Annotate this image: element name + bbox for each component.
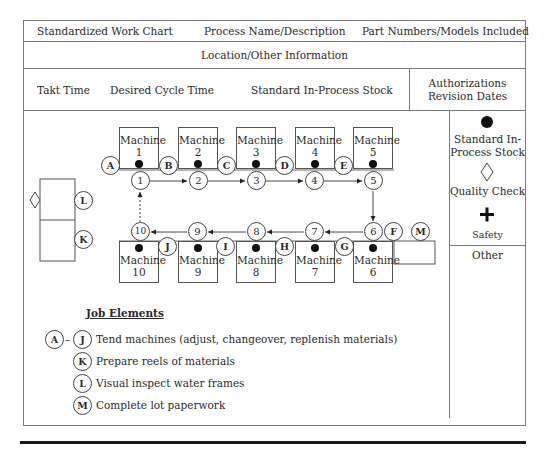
element-g: G	[335, 237, 354, 256]
element-h: H	[275, 237, 294, 256]
stock-dot-icon	[135, 244, 143, 252]
job-elements-heading: Job Elements	[86, 307, 164, 319]
job-code-j: J	[73, 330, 92, 349]
machine-label: Machine	[237, 254, 275, 266]
element-m: M	[411, 222, 430, 241]
step-8: 8	[247, 222, 266, 241]
step-6: 6	[364, 222, 383, 241]
machine-label: Machine	[354, 134, 392, 146]
job-element-text: Complete lot paperwork	[96, 399, 225, 411]
element-d: D	[275, 156, 294, 175]
machine-number: 5	[354, 146, 392, 158]
step-10: 10	[131, 222, 150, 241]
stock-dot-icon	[369, 244, 377, 252]
machine-number: 6	[354, 266, 392, 278]
machine-label: Machine	[296, 134, 334, 146]
step-9: 9	[188, 222, 207, 241]
element-b: B	[159, 156, 178, 175]
job-code-l: L	[73, 374, 92, 393]
stock-dot-icon	[311, 244, 319, 252]
machine-number: 10	[120, 266, 158, 278]
job-element-text: Tend machines (adjust, changeover, reple…	[96, 333, 397, 345]
stock-dot-icon	[194, 160, 202, 168]
machine-number: 2	[179, 146, 217, 158]
machine-label: Machine	[237, 134, 275, 146]
element-j: J	[158, 237, 177, 256]
machine-label: Machine	[179, 254, 217, 266]
stock-dot-icon	[311, 160, 319, 168]
element-a: A	[101, 156, 120, 175]
machine-label: Machine	[354, 254, 392, 266]
element-f: F	[384, 222, 403, 241]
machine-label: Machine	[179, 134, 217, 146]
element-k: K	[74, 230, 93, 249]
machine-number: 3	[237, 146, 275, 158]
machine-number: 1	[120, 146, 158, 158]
stock-dot-icon	[369, 160, 377, 168]
stock-dot-icon	[194, 244, 202, 252]
job-element-text: Prepare reels of materials	[96, 355, 235, 367]
job-code-a: A	[45, 330, 64, 349]
step-2: 2	[189, 171, 208, 190]
machine-label: Machine	[296, 254, 334, 266]
element-e: E	[334, 156, 353, 175]
step-4: 4	[305, 171, 324, 190]
job-element-text: Visual inspect water frames	[96, 377, 245, 389]
machine-label: Machine	[120, 134, 158, 146]
element-l: L	[74, 191, 93, 210]
element-i: I	[216, 237, 235, 256]
machine-number: 4	[296, 146, 334, 158]
machine-number: 7	[296, 266, 334, 278]
stock-dot-icon	[135, 160, 143, 168]
job-code-k: K	[73, 352, 92, 371]
machine-number: 8	[237, 266, 275, 278]
stock-dot-icon	[252, 244, 260, 252]
machine-number: 9	[179, 266, 217, 278]
step-1: 1	[131, 171, 150, 190]
machine-label: Machine	[120, 254, 158, 266]
step-3: 3	[247, 171, 266, 190]
job-code-dash: –	[65, 333, 70, 345]
step-7: 7	[305, 222, 324, 241]
step-5: 5	[364, 171, 383, 190]
stock-dot-icon	[252, 160, 260, 168]
element-c: C	[217, 156, 236, 175]
job-code-m: M	[73, 396, 92, 415]
